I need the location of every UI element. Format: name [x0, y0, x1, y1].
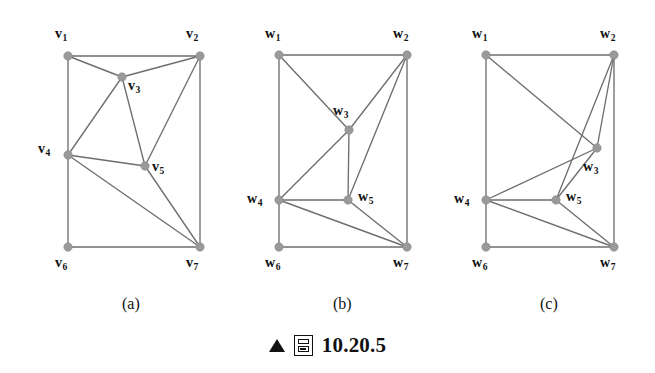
- triangle-up-marker-icon: [269, 339, 285, 352]
- vertex-label-a-v2: v2: [186, 27, 198, 41]
- vertex-label-a-v7: v7: [186, 256, 198, 270]
- vertices-layer: [64, 51, 618, 251]
- graph-vertex-a-v2: [196, 52, 204, 60]
- graph-vertex-a-v3: [118, 73, 126, 81]
- figure-box-icon: [294, 335, 313, 356]
- graph-edge-b-w2-w3: [349, 55, 407, 130]
- graph-edge-a-v1-v3: [68, 56, 122, 77]
- graph-canvas: [0, 0, 655, 373]
- vertex-label-c-w7: w7: [600, 256, 615, 270]
- graph-edge-b-w5-w7: [348, 200, 407, 247]
- graph-edge-c-w2-w5: [556, 55, 614, 200]
- vertex-label-c-w2: w2: [600, 27, 615, 41]
- graph-vertex-b-w1: [275, 51, 283, 59]
- vertex-label-b-w4: w4: [247, 192, 262, 206]
- vertex-label-b-w7: w7: [393, 256, 408, 270]
- graph-edge-b-w4-w7: [279, 200, 407, 247]
- vertex-label-b-w5: w5: [358, 190, 373, 204]
- vertex-label-a-v5: v5: [152, 160, 164, 174]
- graph-edge-a-v4-v5: [68, 155, 145, 166]
- graph-edge-b-w3-w5: [348, 130, 349, 200]
- graph-vertex-c-w6: [482, 243, 490, 251]
- graph-edge-c-w2-w3: [597, 55, 614, 148]
- graph-vertex-c-w7: [610, 243, 618, 251]
- vertex-label-a-v1: v1: [55, 27, 67, 41]
- graph-vertex-b-w2: [403, 51, 411, 59]
- graph-edge-b-w2-w5: [348, 55, 407, 200]
- figure-caption: 10.20.5: [0, 333, 655, 358]
- graph-vertex-a-v1: [64, 52, 72, 60]
- graph-vertex-c-w3: [593, 144, 601, 152]
- graph-vertex-b-w3: [345, 126, 353, 134]
- subfigure-label-b: (b): [333, 295, 352, 313]
- graph-vertex-a-v6: [64, 243, 72, 251]
- figure-box-icon-top: [298, 339, 309, 344]
- graph-edge-a-v4-v7: [68, 155, 200, 247]
- vertex-label-b-w2: w2: [393, 27, 408, 41]
- graph-vertex-b-w4: [275, 196, 283, 204]
- vertex-label-b-w3: w3: [333, 104, 348, 118]
- vertex-label-c-w6: w6: [472, 256, 487, 270]
- vertex-label-a-v4: v4: [38, 142, 50, 156]
- graph-vertex-a-v4: [64, 151, 72, 159]
- vertex-label-b-w6: w6: [265, 256, 280, 270]
- graph-edge-a-v2-v3: [122, 56, 200, 77]
- graph-edge-a-v2-v5: [145, 56, 200, 166]
- vertex-label-c-w5: w5: [566, 190, 581, 204]
- graph-vertex-b-w7: [403, 243, 411, 251]
- graph-vertex-a-v5: [141, 162, 149, 170]
- graph-vertex-c-w5: [552, 196, 560, 204]
- graph-vertex-b-w5: [344, 196, 352, 204]
- graph-vertex-c-w4: [482, 196, 490, 204]
- figure-root: v1v2v3v4v5v6v7w1w2w3w4w5w6w7w1w2w3w4w5w6…: [0, 0, 655, 373]
- edges-layer: [68, 55, 614, 247]
- vertex-label-c-w1: w1: [472, 27, 487, 41]
- vertex-label-c-w4: w4: [454, 192, 469, 206]
- vertex-label-a-v3: v3: [128, 79, 140, 93]
- graph-vertex-a-v7: [196, 243, 204, 251]
- graph-vertex-c-w2: [610, 51, 618, 59]
- subfigure-label-a: (a): [122, 295, 140, 313]
- graph-edge-c-w4-w7: [486, 200, 614, 247]
- graph-edge-a-v3-v4: [68, 77, 122, 155]
- graph-edge-a-v5-v7: [145, 166, 200, 247]
- graph-edge-b-w3-w4: [279, 130, 349, 200]
- figure-box-icon-bottom: [298, 346, 309, 352]
- graph-edge-b-w1-w3: [279, 55, 349, 130]
- vertex-label-a-v6: v6: [55, 256, 67, 270]
- graph-vertex-b-w6: [275, 243, 283, 251]
- figure-number: 10.20.5: [322, 333, 386, 358]
- subfigure-label-c: (c): [540, 295, 558, 313]
- graph-vertex-c-w1: [482, 51, 490, 59]
- graph-edge-c-w5-w7: [556, 200, 614, 247]
- vertex-label-c-w3: w3: [583, 160, 598, 174]
- graph-edge-c-w1-w3: [486, 55, 597, 148]
- vertex-label-b-w1: w1: [265, 27, 280, 41]
